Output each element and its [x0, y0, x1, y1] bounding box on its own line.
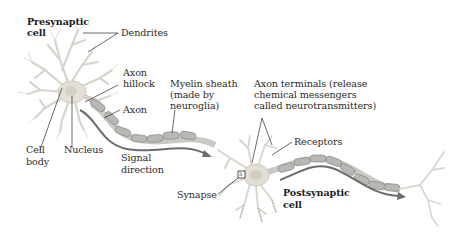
synapse-box-number: 3: [239, 170, 242, 178]
presynaptic-nucleus: [65, 86, 77, 96]
label-presynaptic-line1: Presynaptic: [27, 16, 89, 27]
postsynaptic-nucleus: [250, 170, 262, 180]
label-axon: Axon: [123, 104, 147, 115]
label-postsynaptic-2: cell: [283, 199, 302, 210]
label-myelin-3: neuroglia): [170, 100, 219, 111]
label-receptors: Receptors: [294, 136, 342, 147]
label-axon-terminals-3: called neurotransmitters): [254, 100, 376, 111]
label-synapse: Synapse: [177, 189, 217, 200]
label-axon-hillock-1: Axon: [123, 67, 147, 78]
label-axon-terminals-2: chemical messengers: [254, 89, 357, 100]
label-postsynaptic-1: Postsynaptic: [283, 187, 350, 198]
label-presynaptic-line2: cell: [27, 27, 46, 38]
label-myelin-2: (made by: [170, 89, 214, 100]
label-myelin-1: Myelin sheath: [170, 78, 238, 89]
label-axon-hillock-2: hillock: [123, 78, 155, 89]
label-signal-direction-1: Signal: [121, 152, 151, 163]
label-cell-body-2: body: [26, 156, 49, 167]
label-presynaptic-cell: Presynaptic: [27, 16, 89, 27]
label-presynaptic-cell-2: cell: [27, 27, 46, 38]
label-nucleus: Nucleus: [64, 144, 103, 155]
neuron-diagram: Presynaptic cell Dendrites Axon hillock …: [0, 0, 470, 245]
label-axon-terminals-1: Axon terminals (release: [254, 78, 367, 89]
label-dendrites: Dendrites: [121, 27, 168, 38]
neuron-illustration: [0, 0, 470, 245]
label-cell-body-1: Cell: [26, 144, 45, 155]
label-signal-direction-2: direction: [121, 164, 164, 175]
